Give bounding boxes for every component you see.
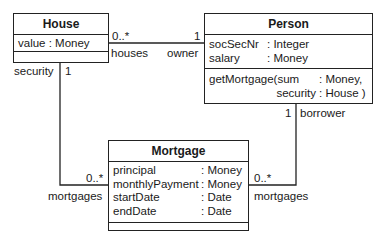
class-person[interactable]: Person socSecNr: Integer salary: Money g… (204, 13, 373, 104)
attribute-name: endDate (113, 205, 201, 219)
class-house[interactable]: House value : Money (13, 13, 109, 63)
house-mortgage-association (60, 62, 108, 185)
operation-param-name: security (209, 86, 319, 100)
operation-row: security: House ) (209, 86, 368, 100)
operation-param-type: : Money, (319, 72, 362, 86)
role-label: borrower (300, 107, 345, 120)
operation-row: getMortgage(sum: Money, (209, 72, 368, 86)
attribute-type: : Money (267, 51, 308, 65)
multiplicity-label: 0..* (112, 30, 129, 43)
class-mortgage-attributes: principal: Money monthlyPayment: Money s… (109, 162, 248, 223)
attribute-type: : Money (201, 164, 242, 178)
class-person-attributes: socSecNr: Integer salary: Money (205, 35, 372, 69)
operation-param-type: : House ) (319, 86, 366, 100)
attribute-row: monthlyPayment: Money (113, 178, 244, 192)
role-label: mortgages (254, 190, 308, 203)
attribute-type: : Date (201, 191, 232, 205)
multiplicity-label: 1 (65, 65, 71, 78)
role-label: houses (111, 47, 148, 60)
attribute-name: principal (113, 164, 201, 178)
multiplicity-label: 1 (285, 107, 291, 120)
class-person-name: Person (205, 14, 372, 35)
attribute-row: salary: Money (209, 51, 368, 65)
class-mortgage-name: Mortgage (109, 141, 248, 162)
attribute-row: endDate: Date (113, 205, 244, 219)
class-house-operations (14, 52, 108, 62)
attribute-row: startDate: Date (113, 191, 244, 205)
role-label: security (14, 65, 54, 78)
attribute-type: : Date (201, 205, 232, 219)
attribute-name: monthlyPayment (113, 178, 201, 192)
attribute-name: salary (209, 51, 267, 65)
attribute-row: socSecNr: Integer (209, 37, 368, 51)
attribute-name: value (18, 36, 46, 50)
class-person-operations: getMortgage(sum: Money, security: House … (205, 69, 372, 101)
multiplicity-label: 0..* (86, 172, 103, 185)
attribute-type: : Integer (267, 37, 309, 51)
role-label: owner (167, 47, 198, 60)
attribute-name: startDate (113, 191, 201, 205)
operation-signature: getMortgage(sum (209, 72, 319, 86)
multiplicity-label: 0..* (254, 172, 271, 185)
attribute-row: principal: Money (113, 164, 244, 178)
class-house-attributes: value : Money (14, 35, 108, 52)
attribute-name: socSecNr (209, 37, 267, 51)
class-house-name: House (14, 14, 108, 35)
multiplicity-label: 1 (194, 30, 200, 43)
class-mortgage[interactable]: Mortgage principal: Money monthlyPayment… (108, 140, 249, 231)
class-mortgage-operations (109, 223, 248, 225)
attribute-row: value : Money (18, 36, 104, 50)
attribute-type: : Money (201, 178, 242, 192)
attribute-type: : Money (49, 36, 90, 50)
role-label: mortgages (48, 190, 102, 203)
